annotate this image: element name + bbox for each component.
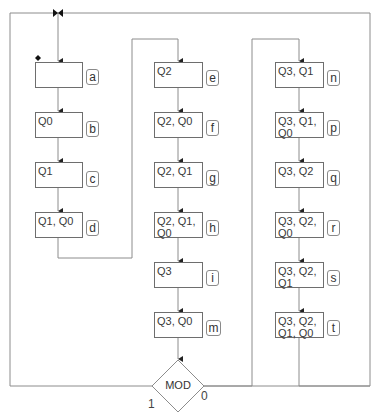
branch-label-1: 1 — [148, 397, 155, 411]
state-box-g: Q2, Q1 — [154, 162, 203, 188]
initial-state-marker-icon — [35, 55, 41, 61]
state-label-n: n — [327, 70, 340, 86]
state-label-a: a — [86, 69, 99, 85]
state-box-d: Q1, Q0 — [35, 212, 83, 238]
branch-label-0: 0 — [201, 389, 208, 403]
decision-label: MOD — [158, 379, 198, 391]
state-label-f: f — [206, 120, 219, 136]
state-box-e: Q2 — [154, 62, 203, 88]
state-box-n: Q3, Q1 — [275, 62, 324, 88]
state-label-e: e — [206, 70, 219, 86]
state-label-r: r — [327, 220, 340, 236]
state-box-f: Q2, Q0 — [154, 112, 203, 138]
state-label-q: q — [327, 170, 340, 186]
state-label-g: g — [206, 170, 219, 186]
state-label-c: c — [86, 171, 99, 187]
state-box-s: Q3, Q2, Q1 — [275, 262, 324, 288]
state-label-p: p — [327, 120, 340, 136]
state-label-s: s — [327, 270, 340, 286]
state-box-a — [35, 62, 83, 88]
state-label-t: t — [327, 320, 340, 336]
state-label-h: h — [206, 220, 219, 236]
state-box-m: Q3, Q0 — [154, 312, 203, 338]
state-box-i: Q3 — [154, 262, 203, 288]
state-label-m: m — [206, 320, 221, 336]
state-box-r: Q3, Q2, Q0 — [275, 212, 324, 238]
state-label-i: i — [206, 270, 219, 286]
state-box-t: Q3, Q2, Q1, Q0 — [275, 312, 324, 338]
state-box-q: Q3, Q2 — [275, 162, 324, 188]
state-label-d: d — [86, 220, 99, 236]
state-box-b: Q0 — [35, 112, 83, 138]
state-box-c: Q1 — [35, 162, 83, 188]
state-label-b: b — [86, 121, 99, 137]
state-box-h: Q2, Q1, Q0 — [154, 212, 203, 238]
state-box-p: Q3, Q1, Q0 — [275, 112, 324, 138]
